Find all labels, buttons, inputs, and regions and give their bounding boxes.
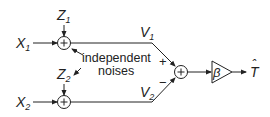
output-t-hat: T ˆ — [250, 58, 260, 80]
bottom-branch: X2 Z2 V2 — [15, 66, 175, 112]
input-x1-label: X1 — [15, 35, 30, 53]
sum-node-2 — [58, 96, 71, 109]
intermediate-v1-label: V1 — [140, 24, 154, 42]
annotation-arrow-down — [74, 68, 81, 75]
input-x2-label: X2 — [15, 94, 30, 112]
annotation-line1: independent — [82, 51, 151, 65]
intermediate-v2-label: V2 — [140, 84, 154, 102]
block-diagram: X1 Z1 V1 X2 Z2 V2 independent noises + — [0, 0, 270, 117]
noise-z2-label: Z2 — [56, 66, 71, 84]
independent-noises-annotation: independent noises — [72, 49, 151, 78]
gain-beta-label: β — [212, 65, 221, 80]
annotation-line2: noises — [98, 64, 134, 78]
plus-sign: + — [159, 54, 167, 69]
difference-node — [175, 66, 188, 79]
minus-sign: − — [159, 75, 167, 90]
noise-z1-label: Z1 — [56, 7, 71, 25]
gain-block: β — [212, 61, 232, 83]
sum-node-1 — [58, 37, 71, 50]
